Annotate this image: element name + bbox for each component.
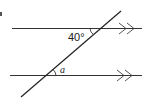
- transversal-line: [21, 11, 121, 97]
- angle-label-40: 40°: [68, 31, 85, 43]
- angle-label-a: a: [60, 64, 65, 75]
- angle-arc-a: [53, 69, 56, 75]
- angle-arc-40: [90, 29, 93, 35]
- corner-mark: [0, 12, 2, 16]
- parallel-lines-diagram: 40° a: [0, 0, 152, 100]
